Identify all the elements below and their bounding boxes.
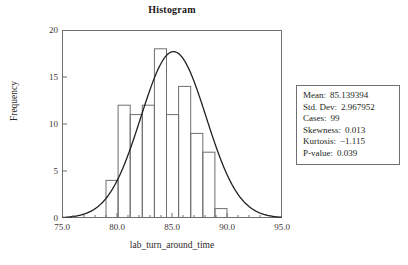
stat-label: Std. Dev: [303,102,337,112]
statistics-box: Mean:85.139394Std. Dev:2.967952Cases:99S… [296,85,400,165]
stat-row: Mean:85.139394 [303,90,395,102]
chart-title: Histogram [62,4,282,15]
stat-value: −1.115 [340,136,365,146]
plot-area [62,30,282,218]
histogram-plot [62,30,282,218]
x-axis-tick-labels: 75.080.085.090.095.0 [0,222,408,236]
stat-value: 85.139394 [330,90,368,100]
y-tick-label: 20 [32,26,58,35]
stat-row: P-value:0.039 [303,148,395,160]
y-axis-title: Frequency [9,51,19,151]
x-tick-label: 80.0 [97,222,137,232]
stat-value: 0.013 [345,125,365,135]
axis-tick-marks [62,30,282,218]
normal-curve [62,52,282,218]
stat-row: Std. Dev:2.967952 [303,102,395,114]
stat-value: 99 [331,113,340,123]
x-tick-label: 75.0 [42,222,82,232]
stat-row: Cases:99 [303,113,395,125]
histogram-bar [118,105,130,218]
stat-row: Kurtosis:−1.115 [303,136,395,148]
y-tick-label: 15 [32,73,58,82]
histogram-bar [203,152,215,218]
y-axis-tick-labels: 05101520 [30,30,58,218]
stat-label: P-value: [303,148,333,158]
stat-label: Mean: [303,90,326,100]
histogram-bar [142,105,154,218]
histogram-bar [167,115,179,218]
histogram-figure: Histogram 05101520 Frequency 75.080.085.… [0,0,408,265]
stat-label: Cases: [303,113,327,123]
y-tick-label: 10 [32,120,58,129]
stat-row: Skewness:0.013 [303,125,395,137]
histogram-bar [179,86,191,218]
x-tick-label: 85.0 [152,222,192,232]
histogram-bars [106,49,227,218]
histogram-bar [106,180,118,218]
stat-value: 0.039 [337,148,357,158]
histogram-bar [191,133,203,218]
x-tick-label: 90.0 [207,222,247,232]
stat-value: 2.967952 [341,102,375,112]
histogram-bar [215,209,227,218]
stat-label: Kurtosis: [303,136,336,146]
x-tick-label: 95.0 [262,222,302,232]
stat-label: Skewness: [303,125,341,135]
y-tick-label: 5 [32,167,58,176]
x-axis-title: lab_turn_around_time [62,240,282,250]
